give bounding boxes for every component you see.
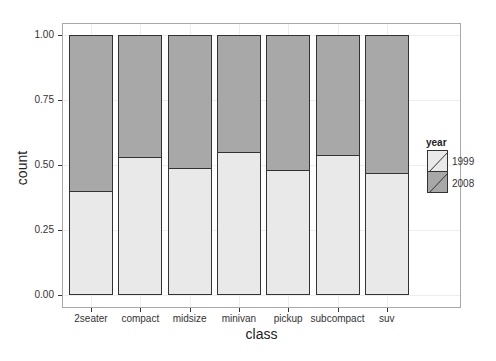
bar-subcompact <box>316 35 360 295</box>
y-tick-mark <box>58 165 62 166</box>
y-tick-label: 1.00 <box>14 29 54 40</box>
bar-minivan <box>217 35 261 295</box>
legend-key-1999 <box>427 150 448 172</box>
bar-segment-2008 <box>70 36 112 192</box>
bar-pickup <box>266 35 310 295</box>
y-tick-label: 0.25 <box>14 224 54 235</box>
x-tick-mark <box>288 308 289 312</box>
bar-segment-1999 <box>70 191 112 294</box>
y-tick-label: 0.00 <box>14 289 54 300</box>
x-tick-mark <box>338 308 339 312</box>
x-tick-mark <box>239 308 240 312</box>
x-tick-mark <box>387 308 388 312</box>
x-tick-mark <box>91 308 92 312</box>
bar-suv <box>365 35 409 295</box>
gridline-h <box>63 295 460 296</box>
bar-segment-2008 <box>317 36 359 156</box>
x-axis-label: class <box>62 326 461 342</box>
y-tick-mark <box>58 295 62 296</box>
bar-2seater <box>69 35 113 295</box>
x-tick-label: suv <box>352 313 422 324</box>
x-tick-mark <box>190 308 191 312</box>
bar-segment-2008 <box>169 36 211 169</box>
bar-segment-2008 <box>267 36 309 171</box>
legend-title: year <box>426 137 447 148</box>
y-tick-mark <box>58 100 62 101</box>
y-tick-mark <box>58 35 62 36</box>
x-tick-mark <box>140 308 141 312</box>
bar-segment-2008 <box>366 36 408 174</box>
bar-segment-1999 <box>119 157 161 294</box>
y-tick-mark <box>58 230 62 231</box>
bar-segment-1999 <box>366 173 408 294</box>
y-tick-label: 0.75 <box>14 94 54 105</box>
bar-segment-2008 <box>119 36 161 158</box>
y-axis-label: count <box>14 138 30 198</box>
bar-segment-1999 <box>317 155 359 294</box>
bar-segment-1999 <box>169 168 211 294</box>
bar-segment-1999 <box>267 170 309 294</box>
bar-compact <box>118 35 162 295</box>
legend-label-2008: 2008 <box>452 178 474 189</box>
bar-segment-2008 <box>218 36 260 153</box>
bar-segment-1999 <box>218 152 260 294</box>
legend-key-2008 <box>427 171 448 193</box>
bar-midsize <box>168 35 212 295</box>
legend-label-1999: 1999 <box>452 156 474 167</box>
